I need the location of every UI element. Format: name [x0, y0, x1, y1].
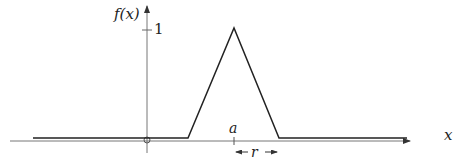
y-tick-label: 1: [154, 22, 164, 37]
function-curve: [33, 28, 407, 138]
triangle-function-diagram: f(x) 1 a r x: [0, 0, 462, 163]
center-label-a: a: [229, 121, 237, 135]
x-axis-label: x: [444, 128, 452, 143]
y-axis-label: f(x): [114, 7, 140, 22]
plot-svg: [0, 0, 462, 163]
halfwidth-label-r: r: [251, 145, 258, 159]
